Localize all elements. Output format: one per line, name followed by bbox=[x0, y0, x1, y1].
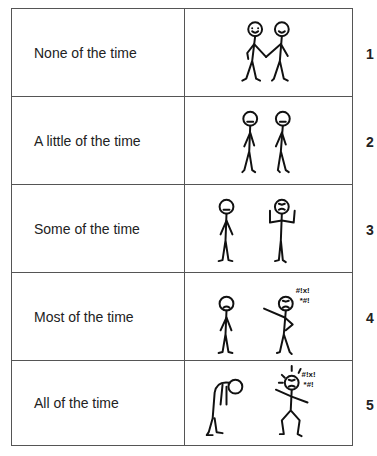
score-1: 1 bbox=[366, 46, 374, 62]
two-neutral-figures-icon bbox=[184, 97, 352, 184]
scale-row-1: None of the time bbox=[12, 9, 352, 96]
row-label: None of the time bbox=[12, 9, 184, 96]
scale-row-3: Some of the time bbox=[12, 184, 352, 272]
exclamation-text: #!x! bbox=[302, 370, 316, 379]
row-label: All of the time bbox=[12, 361, 184, 445]
scale-row-5: All of the time #!x! *#! bbox=[12, 360, 352, 445]
neutral-and-frustrated-figure-icon bbox=[184, 185, 352, 272]
exclamation-text: *#! bbox=[304, 380, 314, 389]
row-label: Some of the time bbox=[12, 185, 184, 272]
score-3: 3 bbox=[366, 222, 374, 238]
row-label: Most of the time bbox=[12, 273, 184, 360]
exclamation-text: *#! bbox=[300, 296, 310, 305]
score-5: 5 bbox=[366, 397, 374, 413]
score-4: 4 bbox=[366, 310, 374, 326]
sad-and-angry-pointing-figure-icon: #!x! *#! bbox=[184, 273, 352, 360]
two-smiling-figures-holding-hands-icon bbox=[184, 9, 352, 96]
emotion-frequency-scale: None of the time A little of the time bbox=[11, 8, 353, 446]
scale-row-2: A little of the time bbox=[12, 96, 352, 184]
scale-row-4: Most of the time #!x! *#! bbox=[12, 272, 352, 360]
row-label: A little of the time bbox=[12, 97, 184, 184]
score-2: 2 bbox=[366, 134, 374, 150]
slumped-and-furious-figure-icon: #!x! *#! bbox=[184, 361, 352, 445]
exclamation-text: #!x! bbox=[296, 286, 310, 295]
